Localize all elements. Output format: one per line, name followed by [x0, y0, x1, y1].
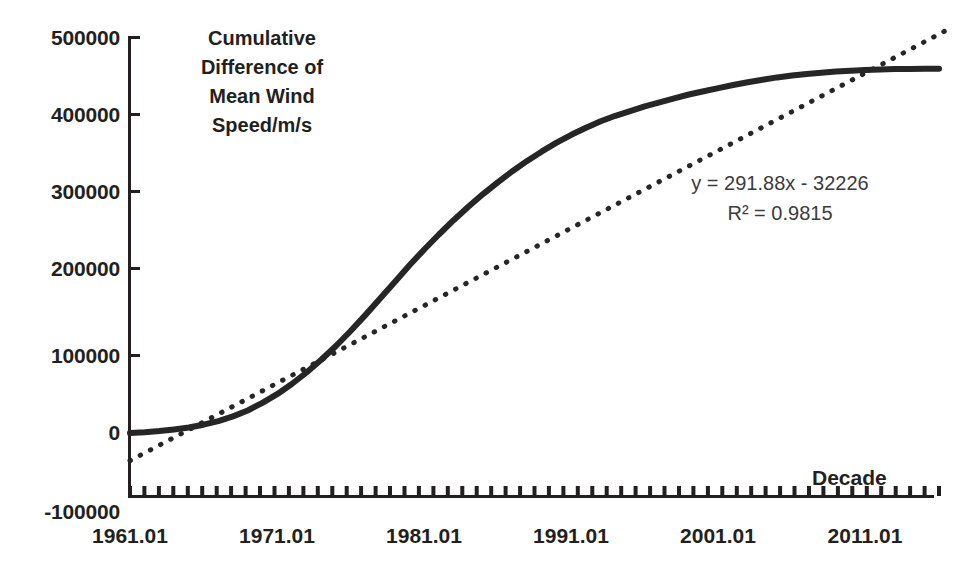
- x-axis-ticks: [130, 486, 939, 496]
- trendline-dotted: [130, 30, 948, 461]
- plot-area: [0, 0, 966, 566]
- chart-figure: 500000 400000 300000 200000 100000 0 -10…: [0, 0, 966, 566]
- data-series-line: [130, 69, 939, 433]
- axes: [128, 36, 939, 497]
